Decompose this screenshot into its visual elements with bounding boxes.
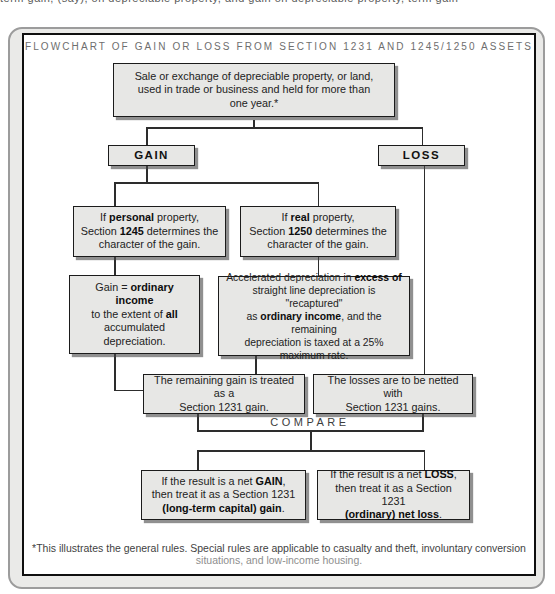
connector xyxy=(114,182,116,207)
flowchart-title: FLOWCHART OF GAIN OR LOSS FROM SECTION 1… xyxy=(22,41,536,52)
connector xyxy=(146,127,423,129)
connector xyxy=(310,430,312,451)
connector xyxy=(424,166,426,375)
connector xyxy=(318,182,320,207)
footnote-line-2: situations, and low-income housing. xyxy=(28,554,530,566)
footnote-line-1: *This illustrates the general rules. Spe… xyxy=(28,542,530,554)
node-sale-or-exchange: Sale or exchange of depreciable property… xyxy=(113,63,395,117)
node-loss: LOSS xyxy=(378,145,465,166)
node-text: If the result is a net LOSS,then treat i… xyxy=(323,468,464,522)
cropped-text-fragment: term gain, (say), on depreciable propert… xyxy=(0,0,555,7)
node-text: LOSS xyxy=(403,148,440,162)
node-gain: GAIN xyxy=(108,145,195,166)
connector xyxy=(197,450,199,471)
connector xyxy=(114,182,319,184)
node-net-gain-result: If the result is a net GAIN,then treat i… xyxy=(141,470,306,520)
connector xyxy=(197,414,199,431)
node-text: Sale or exchange of depreciable property… xyxy=(135,70,374,110)
node-text: If the result is a net GAIN,then treat i… xyxy=(152,475,295,515)
node-section-1250: If real property,Section 1250 determines… xyxy=(240,206,396,257)
connector xyxy=(422,414,424,431)
node-text: The remaining gain is treated as aSectio… xyxy=(149,374,299,414)
node-text: Gain = ordinary incometo the extent of a… xyxy=(75,281,194,348)
connector xyxy=(422,127,424,146)
node-text: GAIN xyxy=(134,148,169,162)
node-net-loss-result: If the result is a net LOSS,then treat i… xyxy=(317,470,470,520)
connector xyxy=(114,257,116,276)
node-section-1245: If personal property,Section 1245 determ… xyxy=(73,206,226,257)
connector xyxy=(146,127,148,146)
node-remaining-gain: The remaining gain is treated as aSectio… xyxy=(143,374,305,414)
node-text: Accelerated depreciation in excess ofstr… xyxy=(224,271,404,362)
node-text: If personal property,Section 1245 determ… xyxy=(81,211,218,251)
connector xyxy=(146,166,148,183)
connector xyxy=(197,450,425,452)
node-losses-netted: The losses are to be netted withSection … xyxy=(313,374,473,414)
node-text: The losses are to be netted withSection … xyxy=(319,374,467,414)
compare-label: COMPARE xyxy=(250,416,370,428)
node-accelerated-depreciation: Accelerated depreciation in excess ofstr… xyxy=(218,276,410,356)
footnote: *This illustrates the general rules. Spe… xyxy=(28,542,530,567)
connector xyxy=(114,354,116,391)
connector xyxy=(114,390,144,392)
node-gain-ordinary-income: Gain = ordinary incometo the extent of a… xyxy=(69,275,200,354)
node-text: If real property,Section 1250 determines… xyxy=(249,211,386,251)
